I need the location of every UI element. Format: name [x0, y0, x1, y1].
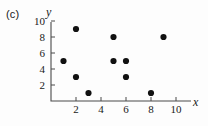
y-axis-ticks: 246810	[34, 15, 55, 91]
x-tick-label: 10	[171, 103, 183, 115]
axis-group	[51, 22, 191, 101]
y-tick-label: 4	[40, 63, 46, 75]
y-tick-label: 8	[40, 31, 46, 43]
data-point	[123, 74, 129, 80]
data-point	[60, 58, 66, 64]
data-point	[110, 34, 116, 40]
x-tick-label: 4	[98, 103, 104, 115]
plot-canvas: 246810 246810	[0, 0, 208, 126]
data-point	[123, 58, 129, 64]
y-tick-label: 6	[40, 47, 46, 59]
x-tick-label: 8	[148, 103, 154, 115]
data-point	[110, 58, 116, 64]
data-point	[73, 26, 79, 32]
data-point	[148, 90, 154, 96]
y-tick-label: 10	[34, 15, 46, 27]
y-tick-label: 2	[40, 79, 46, 91]
x-axis-ticks: 246810	[73, 97, 182, 115]
data-point	[160, 34, 166, 40]
x-tick-label: 6	[123, 103, 129, 115]
data-point	[85, 90, 91, 96]
data-points-group	[60, 26, 166, 96]
data-point	[73, 74, 79, 80]
axis-lines	[51, 22, 191, 101]
scatter-plot-figure: (c) y x 246810 246810	[0, 0, 208, 126]
x-tick-label: 2	[73, 103, 79, 115]
